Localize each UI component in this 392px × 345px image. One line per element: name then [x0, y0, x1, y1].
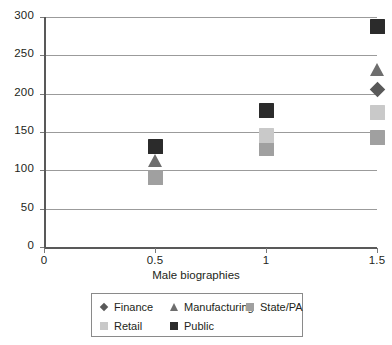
y-axis-tick-label: 200 — [0, 86, 34, 98]
y-axis-tick-label: 100 — [0, 162, 34, 174]
square-marker-icon — [168, 320, 180, 332]
scatter-chart: 050100150200250300 00.511.5 Male biograp… — [0, 0, 392, 345]
data-point-public — [259, 103, 274, 118]
gridline-horizontal — [44, 94, 377, 95]
x-axis-tick-mark — [155, 248, 156, 253]
x-axis-tick-mark — [266, 248, 267, 253]
y-axis-tick-label: 0 — [0, 239, 34, 251]
gridline-horizontal — [44, 55, 377, 56]
y-axis-tick-mark — [40, 170, 44, 171]
data-point-retail — [370, 105, 385, 120]
legend-label: Retail — [114, 320, 142, 332]
x-axis-tick-label: 0 — [19, 254, 69, 266]
data-point-state-pa — [148, 170, 163, 185]
legend-row: FinanceManufacturingState/PA — [92, 298, 304, 316]
legend-item-manufacturing[interactable]: Manufacturing — [168, 298, 254, 316]
data-point-public — [370, 19, 385, 34]
y-axis-tick-mark — [40, 17, 44, 18]
diamond-marker-icon — [98, 301, 110, 313]
legend-row: RetailPublic — [92, 317, 304, 335]
legend-label: Public — [184, 320, 214, 332]
gridline-horizontal — [44, 17, 377, 18]
data-point-retail — [259, 128, 274, 143]
square-marker-icon — [244, 301, 256, 313]
y-axis-tick-mark — [40, 132, 44, 133]
data-point-state-pa — [259, 141, 274, 156]
legend-item-finance[interactable]: Finance — [98, 298, 153, 316]
y-axis-tick-mark — [40, 55, 44, 56]
data-point-manufacturing — [370, 63, 384, 76]
square-marker-icon — [98, 320, 110, 332]
legend-label: Finance — [114, 301, 153, 313]
data-point-public — [148, 139, 163, 154]
gridline-horizontal — [44, 132, 377, 133]
y-axis-tick-label: 250 — [0, 47, 34, 59]
x-axis-tick-label: 1.5 — [352, 254, 392, 266]
x-axis-tick-mark — [377, 248, 378, 253]
y-axis-tick-mark — [40, 94, 44, 95]
y-axis-tick-label: 50 — [0, 201, 34, 213]
y-axis-tick-mark — [40, 209, 44, 210]
triangle-marker-icon — [168, 301, 180, 313]
gridline-horizontal — [44, 247, 377, 249]
x-axis-tick-mark — [44, 248, 45, 253]
data-point-manufacturing — [148, 154, 162, 167]
data-point-state-pa — [370, 130, 385, 145]
x-axis-title: Male biographies — [0, 269, 392, 281]
legend-item-public[interactable]: Public — [168, 317, 214, 335]
y-axis-line — [44, 17, 46, 248]
chart-legend: FinanceManufacturingState/PARetailPublic — [91, 293, 303, 337]
y-axis-tick-label: 150 — [0, 124, 34, 136]
x-axis-tick-label: 1 — [241, 254, 291, 266]
y-axis-tick-label: 300 — [0, 9, 34, 21]
gridline-horizontal — [44, 209, 377, 210]
legend-item-retail[interactable]: Retail — [98, 317, 142, 335]
x-axis-tick-label: 0.5 — [130, 254, 180, 266]
legend-label: State/PA — [260, 301, 303, 313]
legend-item-state-pa[interactable]: State/PA — [244, 298, 303, 316]
gridline-horizontal — [44, 170, 377, 171]
data-point-finance — [369, 82, 385, 98]
